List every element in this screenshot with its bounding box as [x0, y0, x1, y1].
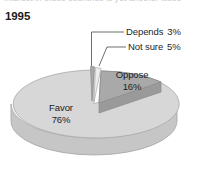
- slice-label-oppose: Oppose 16%: [110, 69, 154, 92]
- slice-label-favor-name: Favor: [38, 102, 84, 114]
- depends-leader-line: [92, 32, 125, 66]
- slice-label-favor: Favor 76%: [38, 102, 84, 125]
- callout-not-sure: Not sure5%: [128, 41, 181, 52]
- callout-not-sure-name: Not sure: [128, 41, 163, 52]
- callout-not-sure-value: 5%: [167, 41, 181, 52]
- slice-label-favor-value: 76%: [38, 114, 84, 126]
- not-sure-leader-line: [99, 47, 126, 66]
- slice-label-oppose-value: 16%: [110, 81, 154, 93]
- figure-container: interest in these countries is yet anoth…: [0, 0, 199, 175]
- slice-label-oppose-name: Oppose: [110, 69, 154, 81]
- callout-depends-value: 3%: [167, 26, 181, 37]
- callout-depends-name: Depends: [126, 26, 163, 37]
- callout-depends: Depends3%: [126, 26, 181, 37]
